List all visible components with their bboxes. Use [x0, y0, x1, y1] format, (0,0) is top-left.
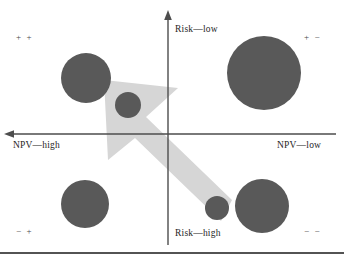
bubble-bottom-mid-small [205, 196, 229, 220]
bubble-center-small [115, 92, 141, 118]
bubble-bottom-left-medium [61, 180, 109, 228]
axis-horizontal [4, 130, 336, 138]
bubble-top-left-large [61, 53, 111, 103]
quadrant-sign-bottom-left: − + [16, 226, 33, 236]
axis-label-risk-low: Risk—low [175, 24, 218, 34]
arrow-left-icon [4, 130, 14, 138]
bubble-top-right-large [227, 36, 301, 110]
axis-label-npv-high: NPV—high [13, 140, 60, 150]
arrow-up-icon [164, 10, 172, 20]
quadrant-sign-top-left: + + [16, 32, 33, 42]
quadrant-sign-bottom-right: − − [304, 226, 321, 236]
chart-canvas [0, 0, 344, 263]
quadrant-bubble-chart: Risk—low Risk—high NPV—high NPV—low + + … [0, 0, 344, 263]
quadrant-sign-top-right: + − [304, 32, 321, 42]
axis-label-npv-low: NPV—low [277, 140, 321, 150]
axis-vertical [164, 10, 172, 245]
bubble-bottom-right-large [235, 179, 289, 233]
axis-label-risk-high: Risk—high [175, 228, 221, 238]
